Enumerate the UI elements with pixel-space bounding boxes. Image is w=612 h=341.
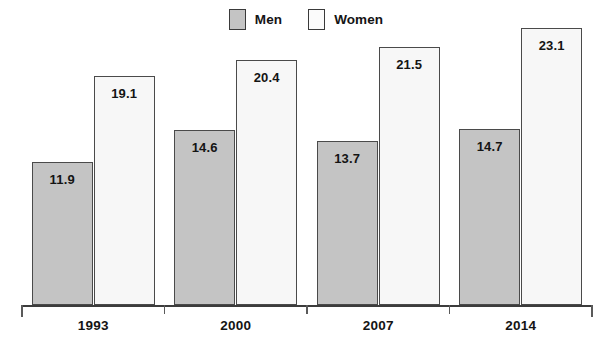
bar-value-label: 23.1 — [522, 38, 581, 53]
bar-men-1993: 11.9 — [32, 162, 93, 305]
bar-value-label: 21.5 — [380, 57, 439, 72]
x-axis-label-1993: 1993 — [22, 318, 165, 333]
plot-area: 11.919.114.620.413.721.514.723.1 — [0, 0, 612, 341]
axis-tick — [591, 305, 593, 317]
bar-value-label: 14.7 — [460, 139, 519, 154]
axis-tick — [449, 305, 451, 314]
bar-men-2000: 14.6 — [174, 130, 235, 305]
axis-tick — [306, 305, 308, 314]
bar-men-2007: 13.7 — [317, 141, 378, 305]
bar-value-label: 14.6 — [175, 140, 234, 155]
bar-women-2000: 20.4 — [236, 60, 297, 305]
axis-tick — [164, 305, 166, 314]
x-axis-label-2007: 2007 — [307, 318, 450, 333]
bar-women-1993: 19.1 — [94, 76, 155, 305]
axis-tick — [21, 305, 23, 317]
bar-men-2014: 14.7 — [459, 129, 520, 305]
bar-women-2014: 23.1 — [521, 28, 582, 305]
bar-value-label: 11.9 — [33, 172, 92, 187]
x-axis-label-2014: 2014 — [450, 318, 593, 333]
bar-value-label: 13.7 — [318, 151, 377, 166]
bar-women-2007: 21.5 — [379, 47, 440, 305]
bar-value-label: 20.4 — [237, 70, 296, 85]
bar-chart: Men Women 11.919.114.620.413.721.514.723… — [0, 0, 612, 341]
x-axis-label-2000: 2000 — [165, 318, 308, 333]
bar-value-label: 19.1 — [95, 86, 154, 101]
